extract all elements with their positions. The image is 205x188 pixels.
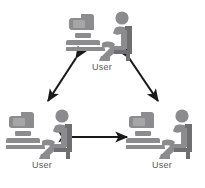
peer-network-diagram: User U — [0, 0, 205, 188]
user-at-computer-icon — [6, 106, 78, 162]
user-at-computer-icon — [66, 8, 138, 64]
node-label: User — [66, 62, 138, 73]
node-label: User — [6, 160, 78, 171]
network-node-right[interactable]: User — [126, 106, 198, 178]
node-label: User — [126, 160, 198, 171]
network-node-top[interactable]: User — [66, 8, 138, 80]
network-node-left[interactable]: User — [6, 106, 78, 178]
user-at-computer-icon — [126, 106, 198, 162]
